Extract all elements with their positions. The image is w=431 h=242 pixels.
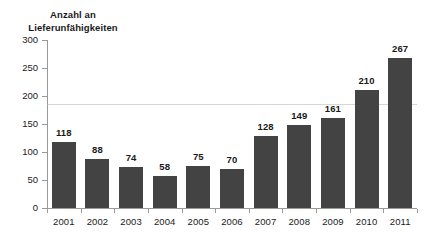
x-tick-mark [383,209,384,213]
x-tick-mark [282,209,283,213]
bar-value-label: 161 [313,103,353,114]
y-tick-label: 150 [0,118,38,129]
y-tick-label: 250 [0,62,38,73]
y-tick-label: 0 [0,202,38,213]
bar-value-label: 118 [44,127,84,138]
y-tick-label: 50 [0,174,38,185]
y-tick-mark [42,96,47,97]
bar [355,90,379,208]
bar [287,125,311,208]
x-tick-mark [350,209,351,213]
bar [119,167,143,208]
bar-value-label: 128 [246,121,286,132]
bar [52,142,76,208]
bar [254,136,278,208]
y-axis-line [47,40,48,209]
x-tick-mark [215,209,216,213]
x-tick-mark [316,209,317,213]
x-axis-line [47,208,417,209]
y-tick-mark [42,40,47,41]
x-tick-mark [81,209,82,213]
bar [85,159,109,208]
y-tick-mark [42,180,47,181]
bar [153,176,177,208]
bar [321,118,345,208]
x-tick-label: 2011 [380,216,420,227]
bar [220,169,244,208]
y-tick-mark [42,152,47,153]
y-tick-label: 100 [0,146,38,157]
x-tick-mark [249,209,250,213]
bar-value-label: 210 [347,75,387,86]
bar [186,166,210,208]
bar-value-label: 58 [145,161,185,172]
chart-title: Anzahl an Lieferunfähigkeiten [14,9,132,34]
y-tick-mark [42,68,47,69]
y-tick-label: 300 [0,34,38,45]
y-tick-mark [42,124,47,125]
bar [388,58,412,208]
x-tick-mark [417,209,418,213]
bar-value-label: 267 [380,43,420,54]
x-tick-mark [182,209,183,213]
x-tick-mark [47,209,48,213]
x-tick-mark [148,209,149,213]
bar-chart: Anzahl an Lieferunfähigkeiten 0501001502… [0,0,431,242]
bar-value-label: 70 [212,154,252,165]
x-tick-mark [114,209,115,213]
y-tick-label: 200 [0,90,38,101]
